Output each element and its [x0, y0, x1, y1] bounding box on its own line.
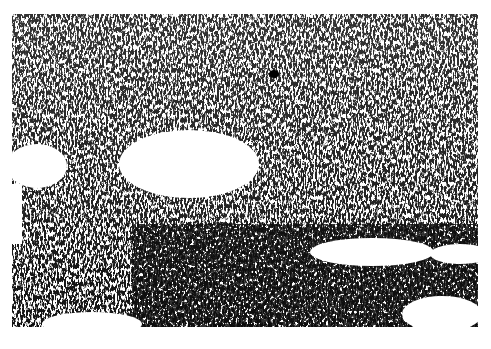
micrograph-image	[12, 14, 478, 327]
micrograph-texture	[12, 14, 478, 327]
